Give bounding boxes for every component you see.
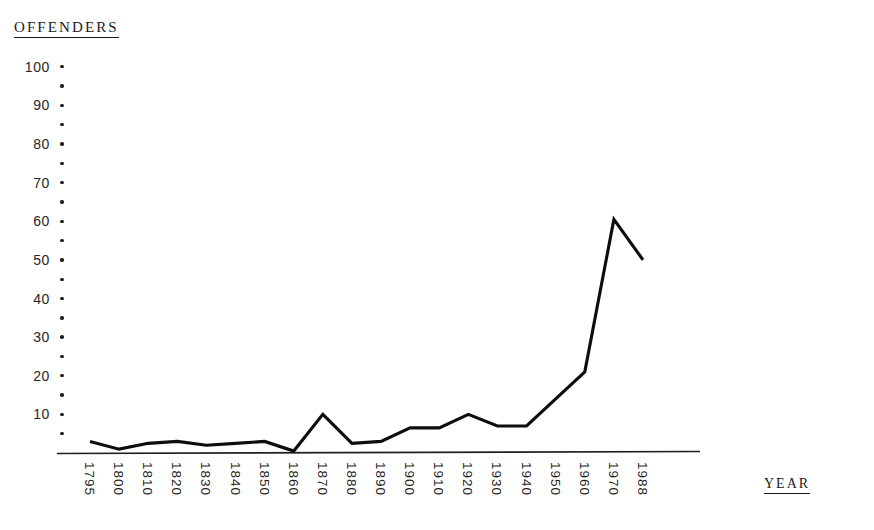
- offenders-by-year-chart: OFFENDERS YEAR 100908070605040302010 179…: [0, 0, 874, 530]
- data-series-line: [90, 219, 643, 451]
- plot-area: [0, 0, 874, 530]
- x-axis-line: [57, 452, 700, 454]
